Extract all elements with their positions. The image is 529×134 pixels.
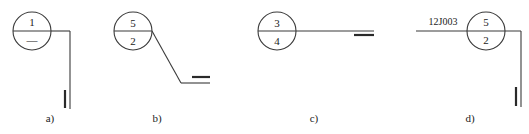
panel-b: 5 2 b) bbox=[114, 12, 210, 125]
detail-number: 5 bbox=[130, 17, 136, 29]
sheet-number: 4 bbox=[274, 35, 280, 47]
standard-drawing-reference: 12J003 bbox=[429, 16, 458, 27]
leader-line-diagonal bbox=[152, 31, 181, 83]
sheet-number: — bbox=[26, 34, 39, 46]
detail-index-diagram: 1 — a) 5 2 b) 3 4 c) 12J003 5 2 d) bbox=[0, 0, 529, 134]
sheet-number: 2 bbox=[483, 34, 489, 46]
detail-number: 3 bbox=[274, 17, 280, 29]
panel-label: c) bbox=[310, 112, 319, 125]
panel-d: 12J003 5 2 d) bbox=[416, 12, 521, 125]
panel-label: b) bbox=[152, 112, 162, 125]
panel-a: 1 — a) bbox=[13, 12, 70, 125]
detail-number: 5 bbox=[483, 16, 489, 28]
panel-label: d) bbox=[465, 112, 475, 125]
panel-label: a) bbox=[46, 112, 55, 125]
detail-number: 1 bbox=[29, 16, 35, 28]
panel-c: 3 4 c) bbox=[258, 12, 374, 125]
sheet-number: 2 bbox=[130, 35, 136, 47]
